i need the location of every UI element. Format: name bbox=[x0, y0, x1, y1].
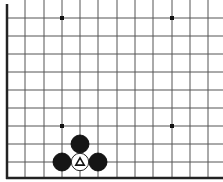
go-board bbox=[0, 0, 223, 182]
black-stone bbox=[89, 153, 107, 171]
star-point-icon bbox=[60, 16, 64, 20]
star-point-icon bbox=[170, 16, 174, 20]
black-stone bbox=[53, 153, 71, 171]
black-stone bbox=[71, 135, 89, 153]
star-point-icon bbox=[170, 124, 174, 128]
star-point-icon bbox=[60, 124, 64, 128]
white-stone bbox=[71, 153, 88, 170]
